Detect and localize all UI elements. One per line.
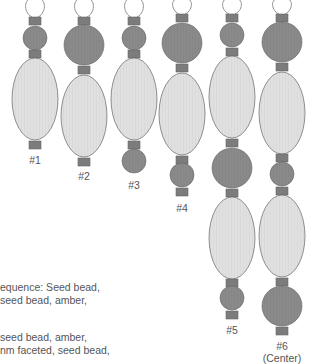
oval-bead [209, 56, 255, 138]
bead-strand-diagram: #1#2#3#4#5#6(Center) equence: Seed bead,… [0, 0, 316, 364]
wire-loop-icon [26, 0, 45, 17]
strand-2 [61, 0, 107, 166]
strand-label: #2 [78, 170, 90, 182]
strand-label: #1 [29, 154, 41, 166]
wire-loop-icon [173, 0, 192, 14]
round-bead-small [122, 149, 146, 173]
caption-line: equence: Seed bead, [0, 281, 100, 294]
round-bead-large [262, 22, 302, 62]
seed-bead [78, 66, 90, 74]
seed-bead [276, 63, 288, 71]
round-bead-small [23, 26, 47, 50]
round-bead-large [64, 25, 104, 65]
strand-5 [209, 0, 255, 319]
seed-bead [276, 327, 288, 335]
oval-bead [259, 72, 305, 154]
oval-bead [159, 73, 205, 155]
round-bead-small [220, 286, 244, 310]
seed-bead [176, 14, 188, 22]
seed-bead [128, 17, 140, 25]
wire-loop-icon [75, 0, 94, 17]
round-bead-small [220, 23, 244, 47]
seed-bead [78, 158, 90, 166]
seed-bead [226, 311, 238, 319]
seed-bead [226, 48, 238, 56]
strand-4 [159, 0, 205, 196]
seed-bead [78, 17, 90, 25]
seed-bead [226, 139, 238, 147]
seed-bead [128, 50, 140, 58]
wire-loop-icon [273, 0, 292, 14]
oval-bead [12, 58, 58, 140]
caption-line: seed bead, amber, [0, 294, 87, 307]
seed-bead [276, 154, 288, 162]
seed-bead [276, 187, 288, 195]
seed-bead [226, 189, 238, 197]
wire-loop-icon [223, 0, 242, 14]
seed-bead [29, 17, 41, 25]
oval-bead [259, 195, 305, 277]
caption-line: nm faceted, seed bead, [0, 344, 110, 357]
seed-bead [29, 50, 41, 58]
strand-label: #3 [128, 179, 140, 191]
seed-bead [276, 14, 288, 22]
oval-bead [61, 75, 107, 157]
strand-3 [111, 0, 157, 173]
seed-bead [226, 14, 238, 22]
seed-bead [29, 141, 41, 149]
round-bead-small [122, 26, 146, 50]
seed-bead [176, 188, 188, 196]
strand-1 [12, 0, 58, 149]
oval-bead [111, 58, 157, 140]
seed-bead [128, 141, 140, 149]
strand-label: #5 [226, 324, 238, 336]
strand-6 [259, 0, 305, 335]
caption-line: seed bead, amber, [0, 331, 87, 344]
strand-label: #6 [276, 340, 288, 352]
seed-bead [176, 64, 188, 72]
round-bead-large [262, 286, 302, 326]
seed-bead [276, 278, 288, 286]
bead-strands-svg [0, 0, 316, 364]
strand-label: #4 [176, 202, 188, 214]
round-bead-small [270, 162, 294, 186]
oval-bead [209, 197, 255, 279]
strand-sublabel: (Center) [263, 352, 302, 364]
round-bead-large [162, 23, 202, 63]
wire-loop-icon [125, 0, 144, 17]
round-bead-large [212, 148, 252, 188]
round-bead-small [170, 163, 194, 187]
